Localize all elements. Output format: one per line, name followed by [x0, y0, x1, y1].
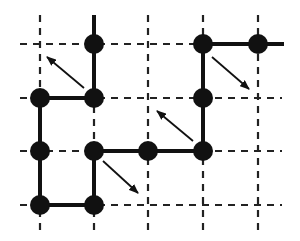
bead-node: [193, 34, 213, 54]
bead-node: [84, 141, 104, 161]
bead-node: [248, 34, 268, 54]
bead-node: [138, 141, 158, 161]
bead-node: [30, 141, 50, 161]
diagram-svg: [0, 0, 300, 241]
bead-node: [84, 34, 104, 54]
move-arrow-icon: [212, 57, 249, 89]
move-arrow-icon: [103, 161, 138, 193]
lattice-diagram: [0, 0, 300, 241]
bead-node: [30, 195, 50, 215]
bead-node: [84, 88, 104, 108]
move-arrow-icon: [157, 111, 193, 141]
bead-node: [84, 195, 104, 215]
bead-node: [193, 88, 213, 108]
bead-node: [193, 141, 213, 161]
bead-node: [30, 88, 50, 108]
dashed-grid: [20, 15, 282, 230]
move-arrow-icon: [47, 57, 84, 88]
